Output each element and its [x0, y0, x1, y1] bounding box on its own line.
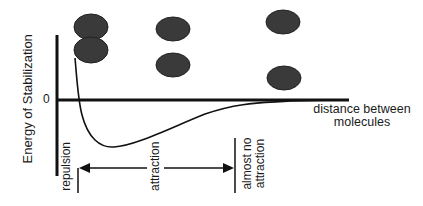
y-axis-label: Energy of Stabilization: [21, 29, 35, 169]
almost-no-attraction-line1: almost no: [241, 132, 254, 196]
almost-no-attraction-line2: attraction: [254, 132, 267, 196]
molecule-pair-optimal: [156, 17, 190, 77]
attraction-label: attraction: [149, 136, 162, 196]
repulsion-label: repulsion: [60, 136, 73, 196]
molecule-pair-overlapping: [74, 14, 108, 63]
x-axis-label-line2: molecules: [302, 116, 422, 129]
almost-no-attraction-label: almost no attraction: [241, 132, 266, 196]
x-axis-label: distance between molecules: [302, 103, 422, 129]
molecule-pair-far-apart: [266, 10, 301, 90]
zero-label: 0: [43, 93, 50, 106]
